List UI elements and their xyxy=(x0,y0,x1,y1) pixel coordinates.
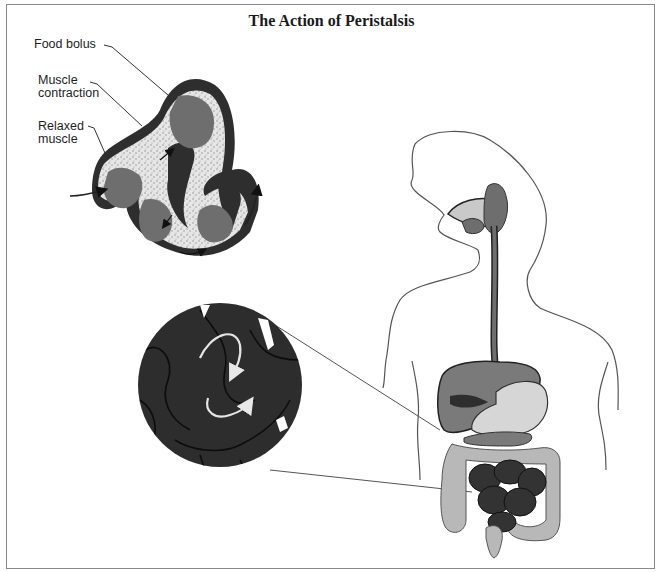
small-intestine xyxy=(469,460,546,532)
rectum xyxy=(486,526,502,558)
intestine-cross-section xyxy=(70,79,259,256)
peristalsis-illustration xyxy=(0,0,663,572)
magnified-small-intestine xyxy=(138,303,302,480)
pancreas xyxy=(464,432,532,446)
mouth-salivary-glands xyxy=(448,184,508,234)
